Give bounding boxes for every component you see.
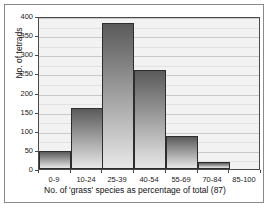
x-tick-mark	[228, 170, 229, 173]
x-tick-mark	[165, 170, 166, 173]
bar-10-24	[71, 108, 103, 169]
x-axis-title: No. of 'grass' species as percentage of …	[15, 185, 255, 195]
x-tick-label: 55-69	[171, 175, 190, 184]
x-tick-label: 70-84	[202, 175, 221, 184]
figure-frame: 050100150200250300350400 No. of tetrads …	[4, 4, 264, 203]
bar-55-69	[166, 136, 198, 169]
y-tick-label: 100	[20, 128, 33, 136]
bar-series	[39, 18, 259, 169]
x-tick-mark	[197, 170, 198, 173]
x-tick-label: 25-39	[107, 175, 126, 184]
x-tick-mark	[70, 170, 71, 173]
y-tick-label: 150	[20, 109, 33, 117]
plot-area	[38, 17, 260, 170]
x-tick-label: 0-9	[49, 175, 60, 184]
x-tick-label: 40-54	[139, 175, 158, 184]
x-tick-label: 85-100	[232, 175, 255, 184]
x-tick-mark	[260, 170, 261, 173]
histogram-chart: 050100150200250300350400 No. of tetrads …	[5, 5, 265, 204]
bar-0-9	[39, 151, 71, 169]
y-tick-label: 0	[29, 166, 33, 174]
y-tick-label: 50	[25, 147, 33, 155]
x-tick-mark	[38, 170, 39, 173]
y-axis-title: No. of tetrads	[14, 6, 24, 100]
bar-70-84	[198, 162, 230, 169]
x-tick-mark	[133, 170, 134, 173]
bar-25-39	[102, 23, 134, 169]
x-tick-mark	[101, 170, 102, 173]
bar-40-54	[134, 70, 166, 169]
x-axis: 0-910-2425-3940-5455-6970-8485-100	[38, 170, 260, 186]
x-tick-label: 10-24	[76, 175, 95, 184]
